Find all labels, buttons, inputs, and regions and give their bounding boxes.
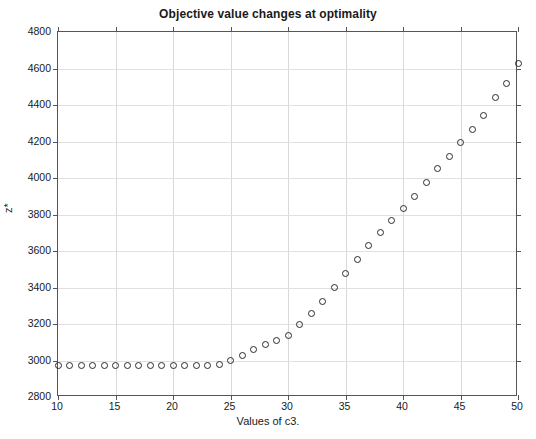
data-point — [158, 362, 165, 369]
x-tick-mark-top — [518, 27, 519, 32]
x-axis-label: Values of c3. — [0, 415, 536, 427]
x-tick-mark-top — [346, 27, 347, 32]
data-point — [112, 362, 119, 369]
data-point — [101, 362, 108, 369]
data-point — [400, 205, 407, 212]
data-point — [227, 357, 234, 364]
chart-figure: Objective value changes at optimality z*… — [0, 0, 536, 439]
data-point — [411, 193, 418, 200]
x-tick-label: 15 — [109, 400, 121, 412]
plot-area — [57, 31, 517, 396]
y-tick-mark-right — [516, 324, 521, 325]
y-tick-label: 4000 — [28, 171, 51, 183]
y-tick-label: 3000 — [28, 354, 51, 366]
gridline-horizontal — [58, 251, 516, 252]
data-point — [89, 362, 96, 369]
gridline-horizontal — [58, 105, 516, 106]
x-tick-mark-top — [173, 27, 174, 32]
y-tick-mark-right — [516, 215, 521, 216]
y-tick-mark-right — [516, 251, 521, 252]
y-tick-label: 3800 — [28, 208, 51, 220]
x-tick-label: 35 — [339, 400, 351, 412]
x-tick-label: 30 — [281, 400, 293, 412]
y-tick-label: 4400 — [28, 98, 51, 110]
gridline-vertical — [116, 32, 117, 395]
gridline-horizontal — [58, 215, 516, 216]
data-point — [273, 337, 280, 344]
gridline-horizontal — [58, 288, 516, 289]
gridline-horizontal — [58, 324, 516, 325]
y-tick-label: 2800 — [28, 390, 51, 402]
data-point — [319, 298, 326, 305]
y-axis-tick-labels: 2800300032003400360038004000420044004600… — [0, 31, 57, 396]
gridline-vertical — [231, 32, 232, 395]
y-tick-label: 4600 — [28, 62, 51, 74]
data-point — [170, 362, 177, 369]
data-point — [239, 352, 246, 359]
data-point — [66, 362, 73, 369]
x-tick-mark-top — [231, 27, 232, 32]
data-point — [377, 229, 384, 236]
gridline-horizontal — [58, 69, 516, 70]
data-point — [492, 94, 499, 101]
data-point — [216, 361, 223, 368]
y-tick-mark-right — [516, 178, 521, 179]
data-point — [250, 346, 257, 353]
gridlines — [58, 32, 516, 395]
data-point — [135, 362, 142, 369]
data-point — [469, 126, 476, 133]
x-tick-label: 45 — [454, 400, 466, 412]
x-tick-label: 25 — [224, 400, 236, 412]
data-point — [503, 80, 510, 87]
y-tick-label: 3200 — [28, 317, 51, 329]
x-tick-label: 50 — [511, 400, 523, 412]
data-point — [423, 179, 430, 186]
gridline-horizontal — [58, 142, 516, 143]
data-point — [308, 310, 315, 317]
data-point — [78, 362, 85, 369]
x-tick-mark-top — [288, 27, 289, 32]
data-point — [181, 362, 188, 369]
gridline-vertical — [173, 32, 174, 395]
x-tick-label: 10 — [51, 400, 63, 412]
data-point — [457, 139, 464, 146]
gridline-vertical — [461, 32, 462, 395]
gridline-horizontal — [58, 178, 516, 179]
y-tick-mark-right — [516, 288, 521, 289]
y-tick-label: 3600 — [28, 244, 51, 256]
data-point — [354, 256, 361, 263]
y-tick-label: 3400 — [28, 281, 51, 293]
gridline-vertical — [346, 32, 347, 395]
data-point — [124, 362, 131, 369]
x-tick-mark-top — [461, 27, 462, 32]
x-tick-mark-top — [58, 27, 59, 32]
y-tick-label: 4800 — [28, 25, 51, 37]
data-point — [204, 362, 211, 369]
data-point — [147, 362, 154, 369]
x-tick-mark-top — [403, 27, 404, 32]
x-tick-label: 40 — [396, 400, 408, 412]
y-tick-mark-right — [516, 69, 521, 70]
y-tick-mark-right — [516, 142, 521, 143]
x-tick-mark-top — [116, 27, 117, 32]
y-tick-mark-right — [516, 361, 521, 362]
data-point — [515, 60, 522, 67]
data-point — [446, 153, 453, 160]
data-point — [331, 284, 338, 291]
data-point — [365, 242, 372, 249]
gridline-vertical — [288, 32, 289, 395]
x-tick-label: 20 — [166, 400, 178, 412]
data-point — [193, 362, 200, 369]
y-tick-label: 4200 — [28, 135, 51, 147]
gridline-vertical — [403, 32, 404, 395]
chart-title: Objective value changes at optimality — [0, 7, 536, 21]
y-tick-mark-right — [516, 105, 521, 106]
data-point — [285, 332, 292, 339]
